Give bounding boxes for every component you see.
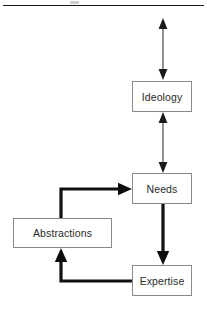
node-ideology-label: Ideology [142, 91, 183, 103]
edge-ideology-needs [159, 112, 168, 173]
node-ideology[interactable]: Ideology [132, 81, 192, 112]
node-expertise[interactable]: Expertise [132, 265, 192, 296]
edge-top-external [159, 18, 168, 80]
node-abstractions-label: Abstractions [33, 227, 92, 239]
diagram-edges [0, 0, 207, 310]
diagram-figure: Ideology Needs Abstractions Expertise [0, 0, 207, 310]
edge-abstractions-needs [61, 183, 132, 218]
edge-expertise-abstractions [55, 248, 132, 281]
node-expertise-label: Expertise [140, 275, 185, 287]
node-needs[interactable]: Needs [132, 173, 192, 204]
node-needs-label: Needs [147, 183, 178, 195]
edge-needs-expertise [157, 204, 169, 265]
node-abstractions[interactable]: Abstractions [13, 218, 112, 248]
